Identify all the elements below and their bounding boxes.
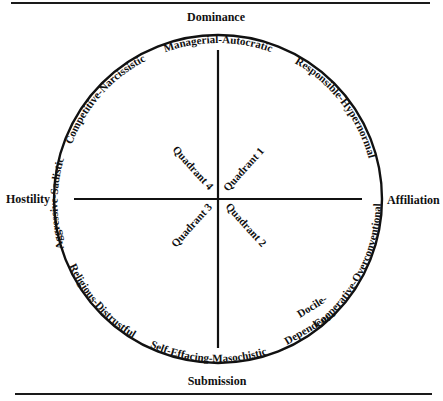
label-docile-line2: Dependent xyxy=(282,311,332,347)
interpersonal-circumplex-diagram: Dominance Submission Hostility Affiliati… xyxy=(0,0,443,401)
label-docile-dependent: Docile- Dependent xyxy=(282,292,332,347)
quadrant-1-label: Quadrant 1 xyxy=(221,145,267,194)
pole-hostility: Hostility xyxy=(6,192,50,206)
label-cooperative-overconventional: Cooperative-Overconventional xyxy=(311,203,383,330)
pole-affiliation: Affiliation xyxy=(387,193,440,207)
quadrant-3-label: Quadrant 3 xyxy=(169,200,215,249)
quadrant-2-label: Quadrant 2 xyxy=(224,200,270,249)
quadrant-4-label: Quadrant 4 xyxy=(171,143,217,192)
label-responsible-hypernormal: Responsible-Hypernormal xyxy=(294,54,379,159)
label-self-effacing-masochistic: Self-Effacing-Masochistic xyxy=(149,338,268,364)
label-religious-distrustful: Religious-Distrustful xyxy=(67,261,138,339)
pole-submission: Submission xyxy=(188,374,247,388)
label-competitive-narcissistic: Competitive-Narcissistic xyxy=(62,52,147,146)
pole-dominance: Dominance xyxy=(187,10,246,24)
label-aggressive-sadistic: Aggressive-Sadistic xyxy=(48,156,66,251)
